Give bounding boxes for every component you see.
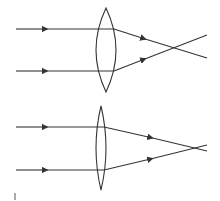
panel-thick-lens [16, 8, 207, 92]
refracted-ray [104, 159, 151, 170]
diagram-canvas [0, 0, 220, 201]
lens-icon [96, 8, 116, 92]
lens-ray-diagram [0, 0, 220, 201]
refracted-ray [144, 39, 208, 59]
refracted-ray [114, 60, 144, 72]
refracted-ray [144, 35, 208, 60]
refracted-ray [114, 29, 144, 39]
refracted-ray [151, 138, 208, 152]
panel-thin-lens [16, 106, 207, 190]
refracted-ray [151, 145, 208, 159]
lens-icon [96, 106, 106, 190]
refracted-ray [104, 127, 151, 138]
